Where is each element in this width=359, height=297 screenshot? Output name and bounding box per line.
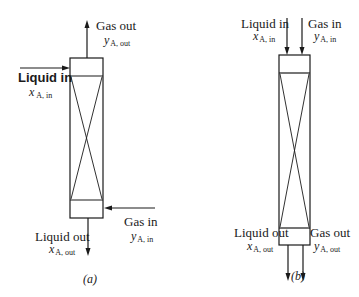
gas-out-b-label: Gas out bbox=[310, 225, 350, 240]
gas-out-b-variable: yA, out bbox=[313, 239, 341, 254]
diagram-a: Gas out yA, out Liquid in xA, in Gas in … bbox=[18, 18, 158, 286]
liquid-out-b-arrow-icon bbox=[286, 273, 291, 281]
gas-out-a-arrow-icon bbox=[85, 20, 90, 28]
gas-in-b-arrow-icon bbox=[300, 47, 305, 55]
gas-in-a-label: Gas in bbox=[124, 214, 158, 229]
diagram-b: Liquid in xA, in Gas in yA, in Liquid ou… bbox=[234, 16, 350, 283]
caption-b: (b) bbox=[291, 269, 305, 283]
gas-out-a-variable: yA, out bbox=[103, 33, 131, 48]
liquid-out-a-label: Liquid out bbox=[35, 229, 90, 244]
liquid-in-a-variable: xA, in bbox=[28, 85, 52, 100]
liquid-in-b-label: Liquid in bbox=[241, 16, 290, 31]
gas-out-a-label: Gas out bbox=[96, 18, 136, 33]
liquid-out-b-variable: xA, out bbox=[246, 239, 274, 254]
gas-in-a-arrow-icon bbox=[104, 206, 112, 211]
gas-in-b-variable: yA, in bbox=[313, 29, 336, 44]
liquid-in-a-label: Liquid in bbox=[18, 70, 72, 85]
gas-in-a-variable: yA, in bbox=[130, 229, 153, 244]
liquid-out-b-label: Liquid out bbox=[234, 225, 289, 240]
packed-column-diagrams: Gas out yA, out Liquid in xA, in Gas in … bbox=[0, 0, 359, 297]
liquid-out-a-arrow-icon bbox=[86, 248, 91, 256]
liquid-in-b-variable: xA, in bbox=[252, 29, 275, 44]
caption-a: (a) bbox=[83, 272, 97, 286]
liquid-out-a-variable: xA, out bbox=[48, 242, 76, 257]
liquid-in-b-arrow-icon bbox=[285, 47, 290, 55]
